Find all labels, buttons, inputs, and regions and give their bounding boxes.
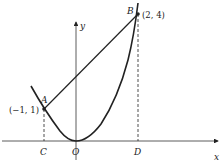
x-axis-label: x bbox=[214, 152, 219, 162]
label-b: B bbox=[126, 6, 134, 16]
label-b-coord: (2, 4) bbox=[142, 10, 165, 20]
label-d: D bbox=[133, 147, 141, 157]
label-a-coord: (−1, 1) bbox=[9, 105, 39, 115]
label-c: C bbox=[40, 147, 47, 157]
label-a: A bbox=[40, 95, 48, 105]
parabola-diagram: y x A (−1, 1) B (2, 4) C O D bbox=[0, 0, 222, 164]
point-b bbox=[136, 12, 140, 16]
point-a bbox=[42, 107, 46, 111]
chord-ab bbox=[44, 14, 138, 109]
y-axis-label: y bbox=[79, 21, 86, 31]
label-o: O bbox=[72, 147, 80, 157]
